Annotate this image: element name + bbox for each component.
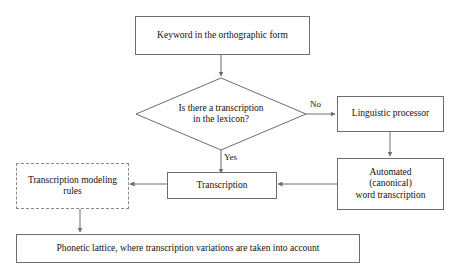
edge-label-yes-text: Yes — [224, 152, 237, 162]
node-keyword-label: Keyword in the orthographic form — [154, 30, 291, 41]
decision-label-line-1: Is there a transcription — [178, 103, 263, 113]
node-transcription-modeling-rules-label: Transcription modeling rules — [25, 175, 120, 197]
edge-label-no-text: No — [310, 99, 321, 109]
node-keyword-orthographic-form: Keyword in the orthographic form — [135, 16, 310, 55]
node-automated-word-transcription-label: Automated (canonical) word transcription — [353, 167, 429, 201]
automated-line-2: (canonical) — [369, 178, 412, 188]
automated-line-3: word transcription — [356, 190, 426, 200]
node-linguistic-processor-label: Linguistic processor — [349, 108, 432, 119]
node-linguistic-processor: Linguistic processor — [337, 96, 444, 132]
edge-label-yes: Yes — [224, 152, 237, 162]
modeling-rules-line-1: Transcription modeling — [28, 175, 117, 185]
node-decision-transcription-in-lexicon: Is there a transcription in the lexicon? — [136, 78, 306, 150]
decision-label-wrapper: Is there a transcription in the lexicon? — [178, 103, 263, 125]
flowchart-diagram: Keyword in the orthographic form Is ther… — [0, 0, 459, 274]
node-automated-word-transcription: Automated (canonical) word transcription — [337, 158, 444, 210]
node-phonetic-lattice-label: Phonetic lattice, where transcription va… — [54, 243, 323, 254]
node-transcription: Transcription — [167, 172, 277, 199]
node-transcription-modeling-rules: Transcription modeling rules — [16, 163, 129, 209]
automated-line-1: Automated — [369, 167, 411, 177]
edge-label-no: No — [310, 99, 321, 109]
node-transcription-label: Transcription — [194, 180, 251, 191]
node-phonetic-lattice: Phonetic lattice, where transcription va… — [16, 234, 360, 263]
decision-label-line-2: in the lexicon? — [193, 114, 249, 124]
modeling-rules-line-2: rules — [63, 186, 81, 196]
